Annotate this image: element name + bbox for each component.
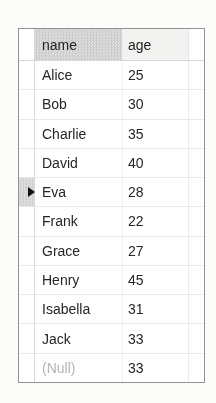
name-cell[interactable]: Isabella — [35, 295, 123, 323]
age-cell[interactable]: 45 — [123, 266, 189, 294]
row-filler — [189, 207, 204, 235]
age-cell-text: 31 — [128, 302, 144, 316]
name-cell[interactable]: (Null) — [35, 354, 123, 382]
row-filler — [189, 354, 204, 382]
age-cell-text: 35 — [128, 127, 144, 141]
age-cell-text: 25 — [128, 68, 144, 82]
row-selector-gutter[interactable] — [19, 90, 35, 118]
row-selector-gutter[interactable] — [19, 120, 35, 148]
row-filler — [189, 120, 204, 148]
age-cell[interactable]: 33 — [123, 354, 189, 382]
table-row[interactable]: Bob 30 — [19, 90, 204, 119]
column-header-name-label: name — [42, 38, 77, 52]
age-cell-text: 22 — [128, 214, 144, 228]
age-cell[interactable]: 22 — [123, 207, 189, 235]
row-selector-gutter[interactable] — [19, 324, 35, 352]
row-filler — [189, 90, 204, 118]
row-filler — [189, 295, 204, 323]
age-cell[interactable]: 30 — [123, 90, 189, 118]
table-row[interactable]: Charlie 35 — [19, 120, 204, 149]
table-row[interactable]: David 40 — [19, 149, 204, 178]
age-cell[interactable]: 27 — [123, 237, 189, 265]
name-cell-text: (Null) — [42, 361, 75, 375]
age-cell-text: 33 — [128, 361, 144, 375]
name-cell-text: David — [42, 156, 78, 170]
age-cell-text: 30 — [128, 97, 144, 111]
name-cell-text: Frank — [42, 214, 78, 228]
table-row[interactable]: Jack 33 — [19, 324, 204, 353]
name-cell[interactable]: Henry — [35, 266, 123, 294]
age-cell-text: 28 — [128, 185, 144, 199]
row-selector-gutter[interactable] — [19, 266, 35, 294]
table-row[interactable]: Grace 27 — [19, 237, 204, 266]
age-cell[interactable]: 35 — [123, 120, 189, 148]
row-selector-gutter[interactable] — [19, 149, 35, 177]
name-cell[interactable]: Frank — [35, 207, 123, 235]
age-cell-text: 33 — [128, 332, 144, 346]
row-filler — [189, 324, 204, 352]
table-row[interactable]: Eva 28 — [19, 178, 204, 207]
grid-header-row: name age — [19, 29, 204, 61]
row-selector-gutter[interactable] — [19, 354, 35, 382]
name-cell[interactable]: Charlie — [35, 120, 123, 148]
table-row[interactable]: (Null) 33 — [19, 354, 204, 382]
column-header-name[interactable]: name — [35, 29, 123, 60]
row-selector-gutter[interactable] — [19, 237, 35, 265]
age-cell[interactable]: 25 — [123, 61, 189, 89]
name-cell[interactable]: Grace — [35, 237, 123, 265]
table-row[interactable]: Isabella 31 — [19, 295, 204, 324]
age-cell-text: 40 — [128, 156, 144, 170]
data-grid: name age Alice 25 — [18, 28, 205, 383]
row-filler — [189, 237, 204, 265]
row-selector-corner[interactable] — [19, 29, 35, 60]
table-row[interactable]: Frank 22 — [19, 207, 204, 236]
age-cell-text: 45 — [128, 273, 144, 287]
row-selector-gutter[interactable] — [19, 178, 35, 206]
name-cell-text: Henry — [42, 273, 79, 287]
name-cell-text: Charlie — [42, 127, 86, 141]
name-cell-text: Bob — [42, 97, 67, 111]
name-cell[interactable]: Alice — [35, 61, 123, 89]
name-cell[interactable]: Jack — [35, 324, 123, 352]
column-header-age-label: age — [128, 38, 151, 52]
current-row-marker-icon — [28, 187, 35, 197]
age-cell[interactable]: 31 — [123, 295, 189, 323]
table-row[interactable]: Henry 45 — [19, 266, 204, 295]
row-filler — [189, 178, 204, 206]
age-cell-text: 27 — [128, 244, 144, 258]
name-cell-text: Jack — [42, 332, 71, 346]
age-cell[interactable]: 33 — [123, 324, 189, 352]
row-filler — [189, 266, 204, 294]
name-cell[interactable]: Bob — [35, 90, 123, 118]
row-filler — [189, 149, 204, 177]
row-filler — [189, 61, 204, 89]
page-background: name age Alice 25 — [0, 0, 216, 403]
name-cell[interactable]: David — [35, 149, 123, 177]
header-filler — [189, 29, 204, 60]
row-selector-gutter[interactable] — [19, 61, 35, 89]
column-header-age[interactable]: age — [123, 29, 189, 60]
name-cell-text: Eva — [42, 185, 66, 199]
table-row[interactable]: Alice 25 — [19, 61, 204, 90]
name-cell-text: Isabella — [42, 302, 90, 316]
row-selector-gutter[interactable] — [19, 207, 35, 235]
age-cell[interactable]: 28 — [123, 178, 189, 206]
age-cell[interactable]: 40 — [123, 149, 189, 177]
name-cell-text: Grace — [42, 244, 80, 258]
name-cell-text: Alice — [42, 68, 72, 82]
row-selector-gutter[interactable] — [19, 295, 35, 323]
name-cell[interactable]: Eva — [35, 178, 123, 206]
